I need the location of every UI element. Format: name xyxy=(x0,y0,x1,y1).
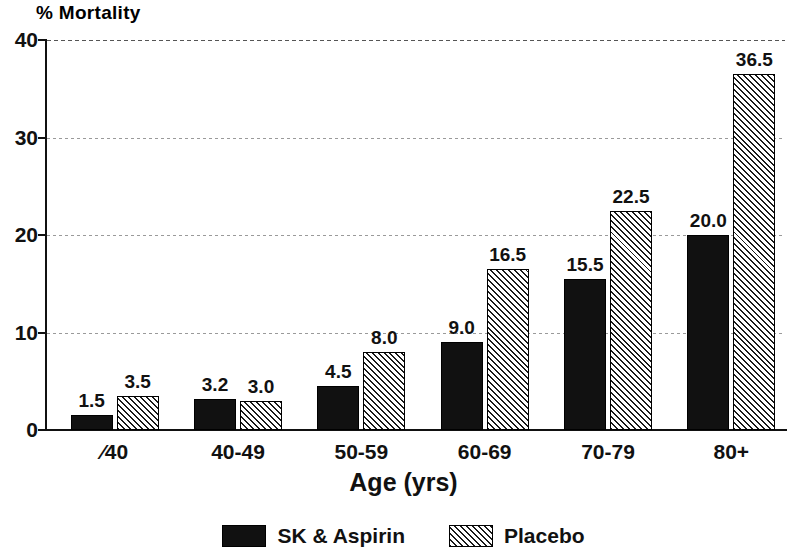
y-tick-label: 30 xyxy=(2,127,38,148)
legend-swatch-placebo-icon xyxy=(449,525,493,547)
legend-swatch-sk-aspirin-icon xyxy=(222,525,266,547)
bar-placebo xyxy=(240,401,282,430)
category-label: 70-79 xyxy=(538,440,678,464)
bar-value-label: 16.5 xyxy=(475,245,541,264)
bar-placebo xyxy=(363,352,405,430)
bar-value-label: 15.5 xyxy=(552,255,618,274)
bar-placebo xyxy=(117,396,159,430)
bar-value-label: 9.0 xyxy=(429,318,495,337)
gridline xyxy=(47,235,785,236)
category-label: 40-49 xyxy=(168,440,308,464)
bar-sk-aspirin xyxy=(564,279,606,430)
y-tick-label: 0 xyxy=(2,419,38,440)
y-tick-label: 10 xyxy=(2,322,38,343)
y-tick-mark xyxy=(38,234,47,236)
y-tick-mark xyxy=(38,137,47,139)
legend-label: Placebo xyxy=(504,524,585,548)
bar-value-label: 36.5 xyxy=(721,50,787,69)
category-label: ⁄40 xyxy=(45,440,185,464)
y-tick-mark xyxy=(38,39,47,41)
y-tick-mark xyxy=(38,332,47,334)
category-label: 80+ xyxy=(661,440,801,464)
bar-value-label: 20.0 xyxy=(675,211,741,230)
gridline xyxy=(47,40,785,41)
bar-value-label: 8.0 xyxy=(351,328,417,347)
bar-value-label: 3.0 xyxy=(228,377,294,396)
bar-placebo xyxy=(487,269,529,430)
y-tick-label: 40 xyxy=(2,29,38,50)
x-axis-title: Age (yrs) xyxy=(0,468,807,497)
mortality-bar-chart: % Mortality 010203040 1.53.53.23.04.58.0… xyxy=(0,0,807,560)
y-axis-title: % Mortality xyxy=(36,2,141,24)
bar-value-label: 3.5 xyxy=(105,372,171,391)
category-label: 50-59 xyxy=(291,440,431,464)
y-tick-mark xyxy=(38,429,47,431)
chart-legend: SK & AspirinPlacebo xyxy=(0,524,807,548)
legend-item: SK & Aspirin xyxy=(222,524,405,548)
bar-placebo xyxy=(733,74,775,430)
bar-sk-aspirin xyxy=(317,386,359,430)
bar-value-label: 4.5 xyxy=(305,362,371,381)
bar-sk-aspirin xyxy=(71,415,113,430)
bar-value-label: 1.5 xyxy=(59,391,125,410)
legend-label: SK & Aspirin xyxy=(277,524,405,548)
gridline xyxy=(47,138,785,139)
bar-sk-aspirin xyxy=(441,342,483,430)
bar-value-label: 22.5 xyxy=(598,187,664,206)
legend-item: Placebo xyxy=(449,524,585,548)
bar-placebo xyxy=(610,211,652,430)
bar-sk-aspirin xyxy=(194,399,236,430)
bar-sk-aspirin xyxy=(687,235,729,430)
category-label: 60-69 xyxy=(415,440,555,464)
y-tick-label: 20 xyxy=(2,224,38,245)
